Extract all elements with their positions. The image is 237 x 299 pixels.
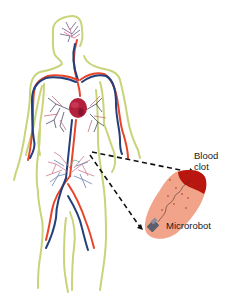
- blood-clot-label-line1: Blood: [194, 150, 234, 161]
- heart: [69, 98, 87, 118]
- pointer-arrowhead-robot: [137, 224, 143, 230]
- microrobot-label: Microrobot: [166, 220, 211, 231]
- microrobot-circulation-diagram: Blood clot Microrobot: [0, 0, 237, 299]
- blood-clot-label-line2: clot: [194, 161, 234, 172]
- blood-clot-label: Blood clot: [194, 150, 234, 172]
